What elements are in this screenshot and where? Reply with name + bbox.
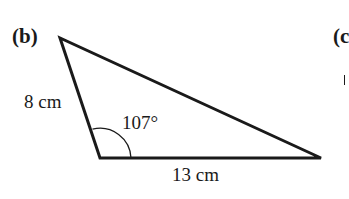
triangle: [60, 38, 321, 158]
part-label: (b): [12, 26, 38, 47]
side-bottom-label: 13 cm: [172, 165, 219, 184]
side-left-label: 8 cm: [24, 92, 61, 111]
next-part-label: (c: [333, 26, 349, 47]
angle-label: 107°: [122, 113, 158, 132]
